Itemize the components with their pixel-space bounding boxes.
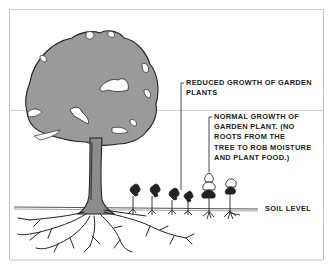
soil-level-line bbox=[14, 207, 258, 211]
normal-plants bbox=[202, 173, 240, 219]
tall-plant-icon bbox=[202, 173, 215, 219]
reduced-growth-label: REDUCED GROWTH OF GARDEN PLANTS bbox=[186, 78, 312, 98]
normal-growth-label: NORMAL GROWTH OF GARDEN PLANT. (NO ROOTS… bbox=[214, 112, 311, 163]
normal-growth-pointer bbox=[209, 117, 212, 172]
tall-plant-icon bbox=[224, 179, 240, 219]
reduced-growth-pointer bbox=[181, 83, 184, 190]
small-plant-icon bbox=[184, 191, 193, 215]
tree-trunk-icon bbox=[78, 138, 114, 214]
small-plant-icon bbox=[168, 188, 179, 215]
tree-roots-icon bbox=[18, 210, 194, 252]
soil-level-label: SOIL LEVEL bbox=[265, 204, 311, 214]
tree-canopy-icon bbox=[26, 31, 158, 146]
small-plant-icon bbox=[129, 184, 140, 214]
diagram-canvas: REDUCED GROWTH OF GARDEN PLANTS NORMAL G… bbox=[0, 0, 334, 270]
